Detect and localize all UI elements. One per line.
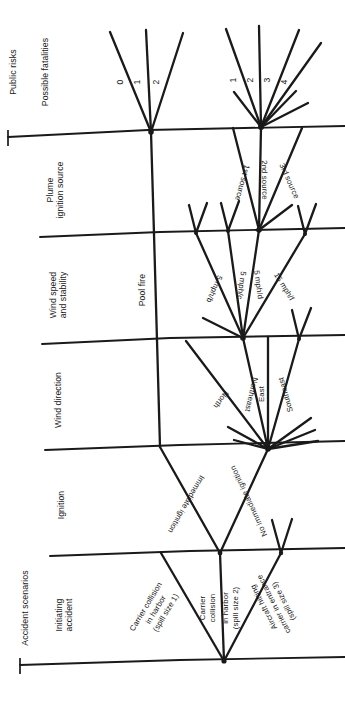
column-label-possible-fatalities: Possible fatalities bbox=[40, 38, 50, 106]
branch-label-carrier-collision-entrance-line1: Carrier bbox=[198, 595, 207, 620]
column-label-plume-ignition-source-line2: ignition source bbox=[55, 161, 65, 218]
event-tree-canvas: Public risks Accident scenarios Possible… bbox=[0, 0, 345, 703]
group-label-public-risks: Public risks bbox=[8, 49, 18, 95]
branch-label-fatalities-1: 1 bbox=[132, 79, 142, 84]
branch-label-fatalities-p1: 1 bbox=[228, 77, 238, 82]
column-label-wind-speed-line2: and stability bbox=[58, 271, 68, 318]
branch-label-fatalities-p2: 2 bbox=[245, 77, 255, 82]
branch-label-east: East bbox=[257, 385, 266, 402]
column-label-wind-speed-line1: Wind speed bbox=[48, 272, 58, 319]
column-label-initiating-accident-line1: Initiating bbox=[54, 598, 64, 631]
branch-label-fatalities-0: 0 bbox=[115, 79, 125, 84]
column-label-initiating-accident-line2: accident bbox=[64, 598, 74, 631]
column-label-plume-ignition-source-line1: Plume bbox=[45, 177, 55, 202]
column-label-ignition: Ignition bbox=[56, 491, 66, 520]
branch-label-pool-fire: Pool fire bbox=[137, 274, 147, 307]
branch-label-carrier-collision-entrance-line3: in harbor bbox=[221, 592, 230, 624]
column-label-wind-direction: Wind direction bbox=[53, 372, 63, 428]
branch-label-carrier-collision-entrance-line2: collision bbox=[208, 594, 217, 623]
group-label-accident-scenarios: Accident scenarios bbox=[20, 570, 30, 646]
branch-label-fatalities-2: 2 bbox=[151, 79, 161, 84]
branch-label-2nd-source: 2nd source bbox=[260, 160, 270, 200]
branch-label-fatalities-p4: 4 bbox=[279, 79, 289, 84]
branch-label-carrier-collision-entrance-line4: (spill size 2) bbox=[231, 586, 240, 629]
event-tree-diagram: Public risks Accident scenarios Possible… bbox=[0, 0, 345, 703]
branch-label-fatalities-p3: 3 bbox=[262, 77, 272, 82]
